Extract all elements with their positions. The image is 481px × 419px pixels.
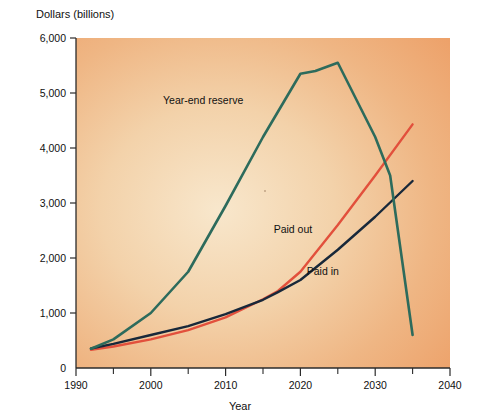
y-tick-label-4000: 4,000 [40,142,66,154]
scan-speck [264,190,266,192]
y-tick-label-6000: 6,000 [40,32,66,44]
x-tick-label-2010: 2010 [214,379,238,391]
x-tick-label-2040: 2040 [438,379,462,391]
y-tick-label-1000: 1,000 [40,307,66,319]
x-axis-title: Year [229,400,252,412]
x-tick-label-2020: 2020 [289,379,313,391]
x-tick-label-1990: 1990 [64,379,88,391]
x-tick-label-2000: 2000 [139,379,163,391]
y-tick-label-2000: 2,000 [40,252,66,264]
x-tick-label-2030: 2030 [364,379,388,391]
chart-figure: 6,000 5,000 4,000 3,000 2,000 1,000 0 Do… [0,0,481,419]
y-tick-label-3000: 3,000 [40,197,66,209]
y-tick-label-5000: 5,000 [40,87,66,99]
series-label-paid-in: Paid in [307,265,339,277]
series-label-year-end-reserve: Year-end reserve [163,94,243,106]
series-label-paid-out: Paid out [274,223,313,235]
y-tick-label-0: 0 [60,362,66,374]
y-axis-title: Dollars (billions) [36,8,114,20]
